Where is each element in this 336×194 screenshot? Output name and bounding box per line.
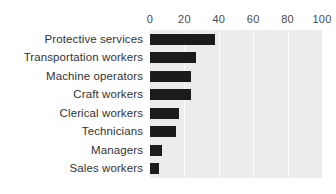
category-axis-labels: Protective servicesTransportation worker… bbox=[0, 30, 146, 178]
bar bbox=[150, 126, 176, 137]
category-label: Craft workers bbox=[73, 88, 146, 101]
x-tick-label-20: 20 bbox=[178, 12, 191, 26]
gridline-100 bbox=[322, 30, 323, 178]
bar-row bbox=[150, 67, 322, 86]
bar bbox=[150, 89, 191, 100]
category-label-row: Clerical workers bbox=[0, 104, 146, 123]
category-label: Managers bbox=[91, 144, 146, 157]
x-tick-label-80: 80 bbox=[281, 12, 294, 26]
bar-row bbox=[150, 86, 322, 105]
bar-row bbox=[150, 49, 322, 68]
category-label: Protective services bbox=[45, 33, 146, 46]
bar-row bbox=[150, 160, 322, 179]
category-label: Technicians bbox=[82, 125, 146, 138]
bar-row bbox=[150, 123, 322, 142]
x-tick-label-40: 40 bbox=[212, 12, 225, 26]
bar bbox=[150, 163, 159, 174]
category-label-row: Technicians bbox=[0, 123, 146, 142]
bar-row bbox=[150, 30, 322, 49]
bar-row bbox=[150, 141, 322, 160]
category-label-row: Machine operators bbox=[0, 67, 146, 86]
category-label: Sales workers bbox=[69, 162, 146, 175]
category-label-row: Craft workers bbox=[0, 86, 146, 105]
bar bbox=[150, 52, 196, 63]
category-label-row: Protective services bbox=[0, 30, 146, 49]
x-tick-label-0: 0 bbox=[147, 12, 153, 26]
x-axis-tick-labels: 020406080100 bbox=[150, 12, 322, 28]
category-label: Machine operators bbox=[46, 70, 146, 83]
bar-row bbox=[150, 104, 322, 123]
category-label-row: Transportation workers bbox=[0, 49, 146, 68]
category-label: Clerical workers bbox=[60, 107, 146, 120]
category-label-row: Sales workers bbox=[0, 160, 146, 179]
bar bbox=[150, 108, 179, 119]
bars-layer bbox=[150, 30, 322, 178]
category-label: Transportation workers bbox=[24, 51, 146, 64]
bar bbox=[150, 34, 215, 45]
bar bbox=[150, 71, 191, 82]
bar-chart: 020406080100 Protective servicesTranspor… bbox=[0, 0, 336, 194]
plot-area bbox=[150, 30, 322, 178]
category-label-row: Managers bbox=[0, 141, 146, 160]
x-tick-label-100: 100 bbox=[313, 12, 332, 26]
x-tick-label-60: 60 bbox=[247, 12, 260, 26]
bar bbox=[150, 145, 162, 156]
